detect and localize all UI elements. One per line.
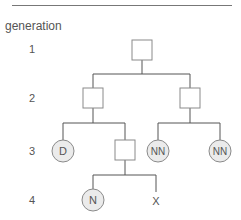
gen3-male-square	[115, 140, 135, 160]
gen2-left-male-square	[83, 88, 103, 108]
svg-text:D: D	[59, 145, 67, 157]
svg-text:NN: NN	[151, 146, 165, 157]
gen3-d-circle: D	[52, 140, 74, 162]
svg-text:N: N	[89, 194, 97, 206]
svg-text:NN: NN	[213, 146, 227, 157]
gen2-right-male-square	[180, 88, 200, 108]
gen1-male-square	[132, 40, 152, 60]
gen4-n-circle: N	[82, 189, 104, 211]
gen3-nn-circle-2: NN	[209, 140, 231, 162]
connector-lines	[63, 60, 220, 192]
gen4-x-marker: X	[152, 195, 160, 207]
pedigree-diagram: D NN NN N X	[0, 0, 241, 220]
gen3-nn-circle-1: NN	[147, 140, 169, 162]
